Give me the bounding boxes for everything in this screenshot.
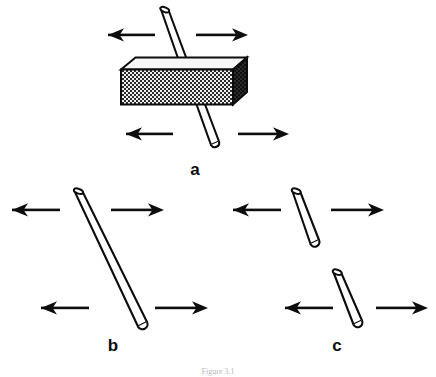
panel-b-arrow-lower-right [155,301,208,314]
panel-a-arrow-upper-right [196,28,248,41]
panel-label-a: a [183,161,207,178]
panel-b-arrow-upper-left [12,203,60,216]
panel-c-arrow-lower-right [376,301,428,314]
panel-c-arrow-upper-right [331,203,384,216]
figure-caption: Figure 3.1 [163,367,273,377]
panel-c-arrow-lower-left [285,301,333,314]
panel-a-rod-lower [196,103,219,147]
panel-label-c: c [325,337,349,354]
panel-a-block [121,58,247,105]
panel-a-arrow-lower-right [238,127,289,140]
panel-b-arrow-upper-right [111,203,164,216]
panel-a-rod-upper [160,6,189,64]
figure-container: a b c Figure 3.1 [0,0,436,377]
figure-canvas [0,0,436,377]
panel-label-b: b [101,337,125,354]
panel-c-rod-upper [291,187,319,246]
panel-a-arrow-upper-left [108,28,155,41]
panel-a-arrow-lower-left [126,127,173,140]
panel-c-rod-lower [332,268,362,327]
panel-b-arrow-lower-left [41,301,89,314]
panel-c-arrow-upper-left [233,203,281,216]
